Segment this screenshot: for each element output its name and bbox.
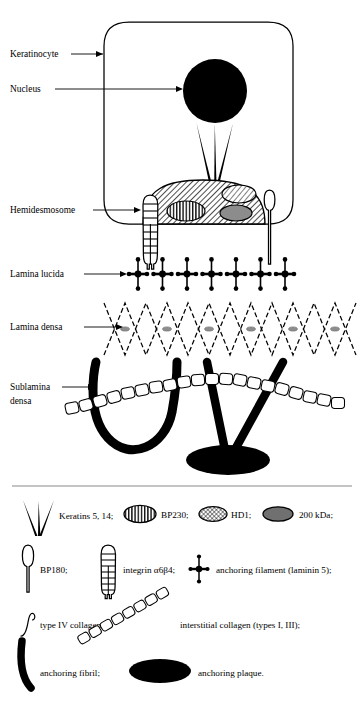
legend-label-200kda: 200 kDa;: [299, 510, 333, 520]
legend-label-hd1: HD1;: [231, 510, 251, 520]
collagen-bead: [232, 373, 247, 386]
legend-label-keratins: Keratins 5, 14;: [59, 511, 113, 521]
anchoring-fibril-left-loop: [93, 362, 177, 450]
anchoring-filament-cross: [225, 257, 248, 291]
anchoring-filament-cross: [176, 257, 199, 291]
keratin-filaments-icon: [23, 500, 54, 536]
anchoring-filament-cross: [274, 257, 297, 291]
bp230-ellipse-icon: [124, 505, 156, 522]
hemidesmosome-dome: [143, 180, 275, 269]
collagen-crossing-node: [163, 327, 172, 331]
collagen-bead: [134, 383, 149, 396]
diagram-label-text: Keratinocyte Nucleus Hemidesmosome Lamin…: [10, 49, 75, 406]
collagen-bead: [332, 398, 345, 409]
collagen-crossing-node: [205, 327, 214, 331]
collagen-bead: [122, 606, 136, 620]
label-hemidesmosome: Hemidesmosome: [10, 205, 75, 215]
legend-label-anchoring-plaque: anchoring plaque.: [198, 668, 264, 678]
collagen-bead: [177, 376, 191, 389]
label-keratinocyte: Keratinocyte: [10, 49, 58, 59]
nucleus-shape: [183, 59, 247, 123]
collagen-bead: [260, 379, 275, 392]
collagen-bead: [106, 390, 122, 404]
legend-label-bp230: BP230;: [161, 510, 189, 520]
legend-row-4: anchoring fibril; anchoring plaque.: [21, 641, 264, 688]
collagen-bead: [77, 631, 91, 645]
legend-label-anchoring-filament: anchoring filament (laminin 5);: [216, 565, 332, 575]
collagen-bead: [206, 374, 219, 385]
type-iv-collagen-strand: [104, 303, 356, 355]
lamina-densa-zigzag: [104, 303, 356, 355]
type-iv-collagen-strand: [104, 303, 356, 355]
figure-canvas: Keratinocyte Nucleus Hemidesmosome Lamin…: [0, 0, 364, 711]
collagen-bead: [191, 374, 205, 386]
collagen-crossing-node: [247, 327, 256, 331]
sublamina-densa: [64, 362, 344, 475]
label-lamina-lucida: Lamina lucida: [10, 269, 65, 279]
collagen-bead: [133, 599, 147, 613]
anchoring-filament-icon: [188, 554, 209, 583]
label-sublamina-densa-line1: Sublamina: [10, 382, 51, 392]
collagen-bead: [274, 382, 290, 396]
label-sublamina-densa-line2: densa: [10, 396, 32, 406]
hd1-plaque: [222, 185, 256, 203]
collagen-bead: [162, 378, 177, 391]
integrin-a6b4-icon: [101, 545, 115, 599]
collagen-bead: [155, 586, 169, 600]
collagen-bead: [64, 401, 79, 414]
legend-label-anchoring-fibril: anchoring fibril;: [40, 668, 100, 678]
legend-row-3: type IV collagen; interstitial collagen …: [21, 586, 301, 644]
collagen-bead: [120, 386, 135, 399]
anchoring-plaque-icon: [129, 659, 191, 683]
label-lamina-densa: Lamina densa: [10, 322, 63, 332]
collagen-bead: [316, 393, 331, 406]
hd1-ellipse-icon: [199, 507, 227, 522]
interstitial-collagen-icon: [77, 586, 170, 644]
bp180-structure: [264, 190, 275, 264]
collagen-bead: [246, 376, 261, 389]
200kda-plaque: [220, 205, 252, 221]
bp230-plaque: [167, 201, 205, 221]
collagen-crossing-node: [121, 327, 130, 331]
collagen-crossing-node: [289, 327, 298, 331]
collagen-bead: [110, 612, 124, 626]
collagen-bead: [149, 381, 163, 394]
collagen-bead: [219, 373, 233, 385]
collagen-crossing-node: [331, 327, 340, 331]
collagen-bead: [288, 386, 304, 400]
legend-label-bp180: BP180;: [40, 565, 68, 575]
legend-row-1: Keratins 5, 14; BP230; HD1; 200 kDa;: [23, 500, 333, 536]
200kda-ellipse-icon: [263, 507, 293, 521]
legend-row-2: BP180; integrin α6β4;: [22, 545, 331, 599]
collagen-bead: [302, 390, 317, 403]
anchoring-fibril-icon: [21, 641, 31, 688]
dermal-epidermal-junction-diagram: Keratinocyte Nucleus Hemidesmosome Lamin…: [0, 0, 364, 711]
interstitial-collagen-chain: [64, 373, 344, 415]
type-iv-collagen-icon: [21, 613, 35, 636]
legend-label-interstitial: interstitial collagen (types I, III);: [180, 620, 300, 630]
integrin-a6b4-structure: [143, 195, 158, 269]
legend-label-integrin: integrin α6β4;: [123, 565, 175, 575]
bp180-icon: [22, 545, 33, 592]
label-nucleus: Nucleus: [10, 84, 41, 94]
collagen-bead: [144, 593, 158, 607]
anchoring-filament-cross: [200, 257, 223, 291]
